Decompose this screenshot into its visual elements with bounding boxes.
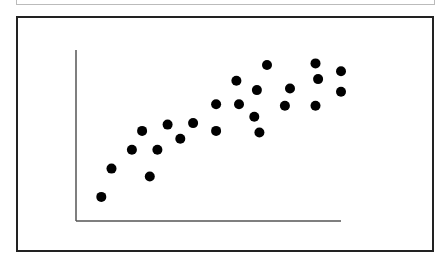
data-point [231,76,241,86]
data-point [152,145,162,155]
data-point [313,74,323,84]
data-point [107,164,117,174]
data-point [249,112,259,122]
data-point [96,192,106,202]
data-point [311,58,321,68]
data-points [96,58,346,202]
data-point [336,66,346,76]
data-point [127,145,137,155]
data-point [311,101,321,111]
data-point [145,172,155,182]
data-point [175,134,185,144]
data-point [234,99,244,109]
data-point [211,99,221,109]
data-point [336,87,346,97]
data-point [280,101,290,111]
data-point [285,84,295,94]
data-point [211,126,221,136]
data-point [163,120,173,130]
data-point [137,126,147,136]
data-point [262,60,272,70]
data-point [252,85,262,95]
data-point [188,118,198,128]
scatter-plot [0,0,446,262]
data-point [254,128,264,138]
